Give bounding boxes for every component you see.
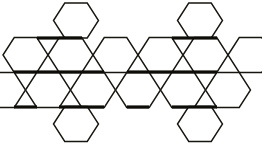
hexagon-tessellation-canvas [0,0,262,150]
figure-root: ons. [0,0,262,150]
